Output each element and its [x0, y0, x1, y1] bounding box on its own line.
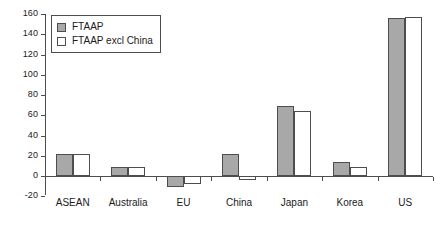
x-axis-tick — [267, 177, 268, 181]
y-axis-tick-label: 80 — [4, 90, 38, 99]
y-axis-tick-label: 40 — [4, 131, 38, 140]
y-axis-tick — [41, 14, 45, 15]
bar — [350, 167, 367, 176]
y-axis-tick-label: 160 — [4, 9, 38, 18]
category-label: Korea — [322, 198, 377, 208]
bar — [128, 167, 145, 176]
legend-swatch-icon-ftaap-excl-china — [57, 37, 66, 46]
legend-item-ftaap-excl-china: FTAAP excl China — [57, 34, 153, 48]
bar — [294, 111, 311, 176]
y-axis-tick-label: 0 — [4, 171, 38, 180]
category-label: EU — [156, 198, 211, 208]
bar — [184, 176, 201, 184]
x-axis-tick — [322, 177, 323, 181]
y-axis-tick — [41, 95, 45, 96]
bar — [333, 162, 350, 176]
x-axis-tick — [100, 177, 101, 181]
legend-label-ftaap-excl-china: FTAAP excl China — [72, 36, 153, 46]
bar-chart: 160140120100806040200-20 ASEANAustraliaE… — [0, 0, 435, 230]
y-axis-tick-label: 120 — [4, 50, 38, 59]
chart-legend: FTAAP FTAAP excl China — [51, 15, 161, 53]
bar — [167, 176, 184, 187]
y-axis-tick-label: 140 — [4, 29, 38, 38]
y-axis-tick — [41, 75, 45, 76]
y-axis-tick — [41, 115, 45, 116]
x-axis-tick — [156, 177, 157, 181]
category-label: China — [211, 198, 266, 208]
legend-swatch-icon-ftaap — [57, 23, 66, 32]
bar — [73, 154, 90, 176]
category-label: US — [378, 198, 433, 208]
bar — [56, 154, 73, 176]
y-axis-tick — [41, 136, 45, 137]
category-label: ASEAN — [45, 198, 100, 208]
bar — [388, 18, 405, 176]
y-axis-tick-label: 100 — [4, 70, 38, 79]
y-axis-tick — [41, 156, 45, 157]
bar — [111, 167, 128, 176]
y-axis-tick-label: 20 — [4, 151, 38, 160]
x-axis-tick — [211, 177, 212, 181]
bar — [222, 154, 239, 176]
x-axis-tick — [45, 177, 46, 181]
x-axis-tick — [433, 177, 434, 181]
y-axis-tick-label: 60 — [4, 110, 38, 119]
y-axis-tick — [41, 34, 45, 35]
bar — [239, 176, 256, 180]
category-label: Australia — [100, 198, 155, 208]
category-label: Japan — [267, 198, 322, 208]
y-axis-tick-label: -20 — [4, 191, 38, 200]
legend-label-ftaap: FTAAP — [72, 22, 103, 32]
y-axis-tick — [41, 55, 45, 56]
legend-item-ftaap: FTAAP — [57, 20, 153, 34]
bar — [405, 17, 422, 176]
x-axis-tick — [378, 177, 379, 181]
bar — [277, 106, 294, 176]
y-axis-line — [45, 14, 46, 195]
